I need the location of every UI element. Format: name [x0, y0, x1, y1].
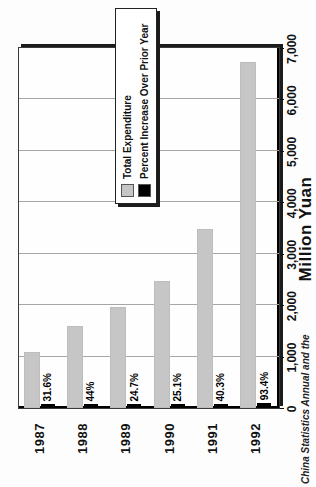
percent-label-1992: 93.4% [257, 372, 272, 400]
x-axis-title: Million Yuan [296, 129, 316, 329]
bar-total-1987 [24, 352, 40, 408]
legend-item-total: Total Expenditure [120, 95, 134, 197]
percent-label-1989: 24.7% [127, 373, 142, 401]
percent-label-1990: 25.1% [170, 373, 185, 401]
year-label-1992: 1992 [248, 423, 264, 485]
source-caption: China Statistics Annual and the [300, 334, 311, 484]
percent-label-1991: 40.3% [213, 373, 228, 401]
tick-mark-1000 [280, 357, 284, 358]
bar-percent-1987 [41, 405, 55, 409]
legend-item-percent: Percent Increase Over Prior Year [137, 24, 151, 197]
bar-total-1988 [67, 326, 83, 408]
bar-total-1990 [154, 281, 170, 408]
tick-mark-7000 [280, 48, 284, 49]
bar-percent-1992 [257, 403, 271, 408]
bar-percent-1989 [127, 405, 141, 409]
legend: Total Expenditure Percent Increase Over … [115, 8, 157, 204]
year-label-1987: 1987 [32, 423, 48, 485]
tick-mark-5000 [280, 151, 284, 152]
legend-swatch-total-icon [121, 184, 134, 197]
bar-total-1989 [110, 307, 126, 408]
year-label-1990: 1990 [162, 423, 178, 485]
tick-label-0: 0 [285, 384, 299, 434]
tick-mark-2000 [280, 305, 284, 306]
bar-percent-1988 [84, 405, 98, 409]
bar-percent-1991 [214, 405, 228, 409]
percent-label-1987: 31.6% [40, 373, 55, 401]
bar-total-1991 [197, 229, 213, 408]
year-label-1989: 1989 [118, 423, 134, 485]
legend-swatch-percent-icon [138, 184, 151, 197]
bar-total-1992 [240, 62, 256, 408]
year-label-1991: 1991 [205, 423, 221, 485]
tick-label-7000: 7,000 [285, 24, 299, 74]
scanned-chart-page: 31.6%44%24.7%25.1%40.3%93.4% 19871988198… [0, 0, 316, 487]
tick-mark-3000 [280, 254, 284, 255]
chart-canvas: 31.6%44%24.7%25.1%40.3%93.4% 19871988198… [0, 0, 316, 487]
legend-label-percent: Percent Increase Over Prior Year [139, 24, 150, 179]
percent-label-1988: 44% [83, 381, 98, 401]
bar-percent-1990 [171, 405, 185, 409]
tick-mark-4000 [280, 202, 284, 203]
legend-label-total: Total Expenditure [122, 95, 133, 179]
tick-mark-6000 [280, 99, 284, 100]
tick-label-1000: 1,000 [285, 333, 299, 383]
tick-label-6000: 6,000 [285, 75, 299, 125]
tick-mark-0 [280, 408, 284, 409]
year-label-1988: 1988 [75, 423, 91, 485]
